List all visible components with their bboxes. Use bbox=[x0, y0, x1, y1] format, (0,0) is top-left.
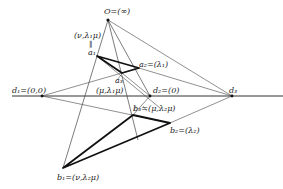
label-d2: d₂=(0) bbox=[153, 86, 179, 95]
label-a1: a₁ bbox=[88, 48, 96, 57]
point-d2 bbox=[149, 95, 152, 98]
point-d1 bbox=[41, 95, 44, 98]
triangle-b bbox=[63, 115, 170, 168]
label-d3: d₃ bbox=[229, 86, 237, 95]
label-a3: a₃ bbox=[115, 76, 123, 85]
line-b2-d3 bbox=[170, 96, 232, 123]
point-O bbox=[106, 18, 109, 21]
point-d3 bbox=[231, 95, 234, 98]
line-O-d3 bbox=[108, 20, 232, 96]
label-O: O=(∞) bbox=[104, 7, 130, 16]
label-b3: b₃=(μ,λ₂μ) bbox=[133, 104, 176, 113]
label-d1: d₁=(0,0) bbox=[12, 86, 46, 95]
projective-diagram: O=(∞) (ν,λ₁μ) ‖ a₁ a₂=(λ₁) a₃ (μ,λ₁μ) d₁… bbox=[0, 0, 283, 189]
label-b1: b₁=(ν,λ₂μ) bbox=[57, 173, 99, 182]
label-a2: a₂=(λ₁) bbox=[139, 60, 168, 69]
label-b2: b₂=(λ₂) bbox=[170, 126, 200, 135]
label-a1-coord: (ν,λ₁μ) bbox=[74, 31, 101, 40]
label-a3-coord: (μ,λ₁μ) bbox=[96, 86, 123, 95]
